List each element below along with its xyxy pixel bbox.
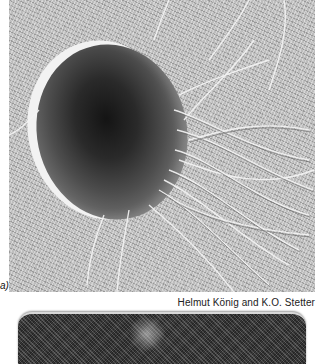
micrograph-panel-b	[18, 312, 306, 364]
flagella-bundle	[9, 0, 315, 292]
photo-credit: Helmut König and K.O. Stetter	[178, 297, 315, 308]
micrograph-panel-a	[9, 0, 315, 292]
panel-label-a: a)	[0, 280, 9, 291]
